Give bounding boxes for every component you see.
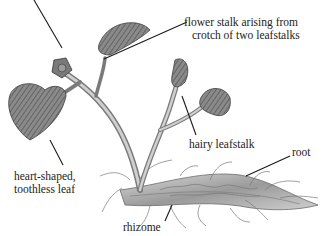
leader-heart-leaf <box>50 140 63 165</box>
rhizome-shape <box>120 174 318 210</box>
label-root: root <box>292 146 311 159</box>
leader-rhizome <box>165 205 172 221</box>
leader-hairy-leafstalk <box>182 96 196 135</box>
label-heart-leaf-line1: heart-shaped, <box>14 170 76 183</box>
leader-root <box>246 156 290 176</box>
leaf-right <box>200 88 231 115</box>
leaf-heart-left <box>9 84 66 140</box>
label-heart-shaped-leaf: heart-shaped, toothless leaf <box>14 170 76 196</box>
leader-top-left <box>34 0 62 48</box>
label-rhizome: rhizome <box>123 221 161 234</box>
label-flower-stalk: flower stalk arising from crotch of two … <box>184 16 300 42</box>
leaf-right-small <box>172 59 188 87</box>
label-flower-stalk-line2: crotch of two leafstalks <box>184 29 300 42</box>
label-hairy-leafstalk: hairy leafstalk <box>189 138 254 151</box>
label-heart-leaf-line2: toothless leaf <box>14 183 76 196</box>
label-flower-stalk-line1: flower stalk arising from <box>184 16 300 29</box>
